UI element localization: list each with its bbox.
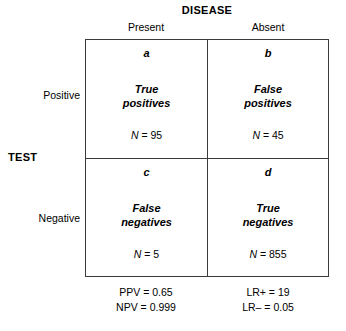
- cell-c-count-value: = 5: [144, 248, 159, 260]
- cell-c-false-negatives: c False negatives N = 5: [86, 158, 207, 276]
- cell-b-count-variable: N: [252, 129, 260, 141]
- cell-c-label: False negatives: [121, 202, 172, 230]
- cell-a-count-variable: N: [131, 129, 139, 141]
- cell-a-count: N = 95: [131, 129, 162, 141]
- cell-d-label: True negatives: [243, 202, 294, 230]
- cell-a-label-line2: positives: [123, 97, 171, 109]
- cell-d-label-line1: True: [256, 202, 280, 214]
- cell-b-label-line2: positives: [244, 97, 292, 109]
- cell-d-count: N = 855: [249, 248, 286, 260]
- cell-d-count-value: = 855: [260, 248, 287, 260]
- cell-a-count-value: = 95: [141, 129, 162, 141]
- cell-d-count-variable: N: [249, 248, 257, 260]
- cell-c-label-line1: False: [132, 202, 160, 214]
- cell-b-count: N = 45: [252, 129, 283, 141]
- cell-d-letter: d: [265, 166, 272, 178]
- stat-npv: NPV = 0.999: [85, 300, 207, 315]
- column-header-present: Present: [85, 21, 207, 33]
- contingency-matrix: a True positives N = 95 b False positive…: [85, 39, 329, 277]
- cell-b-label: False positives: [244, 83, 292, 111]
- cell-b-count-value: = 45: [263, 129, 284, 141]
- cell-d-true-negatives: d True negatives N = 855: [207, 158, 328, 276]
- row-header-positive: Positive: [10, 89, 80, 101]
- row-header-negative: Negative: [10, 212, 80, 224]
- cell-a-label: True positives: [123, 83, 171, 111]
- cell-c-label-line2: negatives: [121, 216, 172, 228]
- stat-ppv: PPV = 0.65: [85, 285, 207, 300]
- stats-predictive-values: PPV = 0.65 NPV = 0.999: [85, 285, 207, 315]
- stats-likelihood-ratios: LR+ = 19 LR– = 0.05: [207, 285, 329, 315]
- row-group-title-test: TEST: [8, 151, 78, 163]
- cell-b-false-positives: b False positives N = 45: [207, 40, 328, 158]
- cell-c-letter: c: [143, 166, 149, 178]
- cell-d-label-line2: negatives: [243, 216, 294, 228]
- cell-a-label-line1: True: [135, 83, 159, 95]
- cell-c-count-variable: N: [134, 248, 142, 260]
- column-group-title-disease: DISEASE: [85, 4, 329, 16]
- column-header-absent: Absent: [207, 21, 329, 33]
- cell-a-true-positives: a True positives N = 95: [86, 40, 207, 158]
- cell-c-count: N = 5: [134, 248, 159, 260]
- stat-lr-negative: LR– = 0.05: [207, 300, 329, 315]
- stat-lr-positive: LR+ = 19: [207, 285, 329, 300]
- cell-b-label-line1: False: [254, 83, 282, 95]
- cell-a-letter: a: [143, 47, 149, 59]
- cell-b-letter: b: [265, 47, 272, 59]
